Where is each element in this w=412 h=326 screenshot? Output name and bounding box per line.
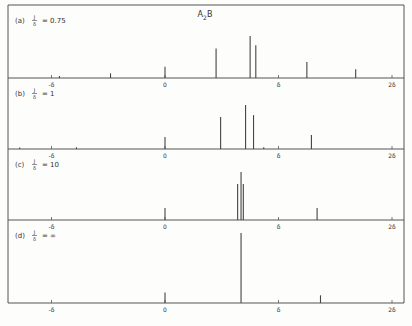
chart-title: A2B <box>198 10 213 21</box>
x-tick-label: δ <box>277 306 281 313</box>
x-tick-label: -δ <box>49 152 55 159</box>
x-tick-label: 2δ <box>388 306 396 313</box>
x-tick-label: -δ <box>49 306 55 313</box>
x-tick-label: 2δ <box>388 223 396 230</box>
x-tick-label: δ <box>277 152 281 159</box>
ratio-value: = 1 <box>42 90 55 98</box>
panel-d: (d)Jδ= ∞-δ0δ2δ <box>8 229 404 313</box>
ratio-denominator: δ <box>33 94 36 100</box>
x-tick-label: δ <box>277 223 281 230</box>
x-tick-label: -δ <box>49 81 55 88</box>
panel-b: (b)Jδ= 1-δ0δ2δ <box>8 87 404 159</box>
panel-label: (b) <box>15 90 25 98</box>
panel-a: (a)Jδ= 0.75-δ0δ2δ <box>8 14 404 88</box>
ratio-denominator: δ <box>33 21 36 27</box>
ratio-numerator: J <box>33 158 35 164</box>
ratio-value: = ∞ <box>42 232 56 240</box>
panel-label: (a) <box>15 17 25 25</box>
ratio-value: = 10 <box>42 161 59 169</box>
x-tick-label: 0 <box>163 81 167 88</box>
x-tick-label: 2δ <box>388 81 396 88</box>
ratio-numerator: J <box>33 229 35 235</box>
ratio-value: = 0.75 <box>42 17 66 25</box>
ratio-denominator: δ <box>33 165 36 171</box>
panel-c: (c)Jδ= 10-δ0δ2δ <box>8 158 404 230</box>
ratio-numerator: J <box>33 87 35 93</box>
panel-label: (d) <box>15 232 25 240</box>
x-tick-label: 0 <box>163 223 167 230</box>
ratio-denominator: δ <box>33 236 36 242</box>
x-tick-label: 0 <box>163 306 167 313</box>
panels: (a)Jδ= 0.75-δ0δ2δ(b)Jδ= 1-δ0δ2δ(c)Jδ= 10… <box>8 14 404 313</box>
chart-frame <box>8 5 404 303</box>
x-tick-label: 0 <box>163 152 167 159</box>
x-tick-label: -δ <box>49 223 55 230</box>
spectra-chart: A2B (a)Jδ= 0.75-δ0δ2δ(b)Jδ= 1-δ0δ2δ(c)Jδ… <box>0 0 412 326</box>
x-tick-label: 2δ <box>388 152 396 159</box>
ratio-numerator: J <box>33 14 35 20</box>
x-tick-label: δ <box>277 81 281 88</box>
panel-label: (c) <box>15 161 25 169</box>
